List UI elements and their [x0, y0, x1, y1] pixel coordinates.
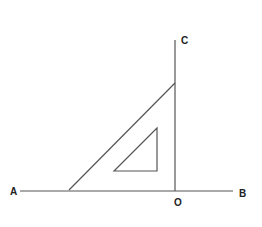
- label-o: O: [174, 197, 182, 208]
- label-c: C: [181, 35, 188, 46]
- label-b: B: [239, 188, 246, 199]
- set-square-outer: [69, 83, 175, 190]
- diagram-canvas: A B C O: [0, 0, 262, 227]
- label-a: A: [10, 186, 17, 197]
- set-square-inner: [114, 128, 157, 171]
